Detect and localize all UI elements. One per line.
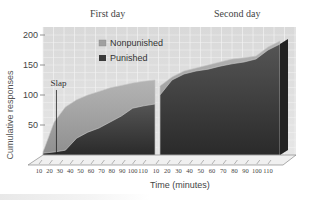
x-tick-label: 110 [263, 167, 273, 174]
x-tick-label: 10 [36, 167, 43, 174]
chart-floor [28, 155, 296, 165]
x-tick-label: 90 [119, 167, 126, 174]
chart-svg: 5010015020010203040506070809010011010203… [0, 0, 314, 200]
y-tick-label: 200 [23, 30, 38, 40]
x-tick-label: 40 [67, 167, 74, 174]
y-tick-label: 150 [23, 60, 38, 70]
y-axis-label: Cumulative responses [5, 70, 15, 159]
x-tick-label: 30 [57, 167, 64, 174]
x-tick-label: 100 [252, 167, 262, 174]
x-tick-label: 60 [209, 167, 216, 174]
legend-swatch-nonpunished [99, 40, 106, 46]
y-tick-label: 100 [23, 90, 38, 100]
figure-caption-fragment [0, 194, 150, 200]
panel-title-second-day: Second day [214, 8, 260, 19]
area-side-face [280, 39, 288, 155]
legend-label-punished: Punished [110, 53, 148, 63]
x-tick-label: 90 [242, 167, 249, 174]
panel-title-first-day: First day [90, 8, 125, 19]
x-axis-label: Time (minutes) [150, 180, 210, 190]
slap-annotation: Slap [50, 78, 67, 88]
y-axis-label-wrap: Cumulative responses [3, 60, 17, 170]
x-tick-label: 80 [231, 167, 238, 174]
x-tick-label: 10 [153, 167, 160, 174]
x-tick-label: 110 [138, 167, 148, 174]
x-tick-label: 20 [46, 167, 53, 174]
x-tick-label: 70 [220, 167, 227, 174]
x-tick-label: 100 [128, 167, 138, 174]
x-tick-label: 70 [98, 167, 105, 174]
y-tick-label: 50 [28, 120, 38, 130]
x-tick-label: 20 [164, 167, 171, 174]
x-tick-label: 50 [198, 167, 205, 174]
x-tick-label: 40 [186, 167, 193, 174]
x-tick-label: 50 [77, 167, 84, 174]
x-tick-label: 80 [109, 167, 116, 174]
x-tick-label: 30 [175, 167, 182, 174]
x-tick-label: 60 [88, 167, 95, 174]
legend-label-nonpunished: Nonpunished [110, 38, 163, 48]
legend-swatch-punished [99, 55, 106, 61]
